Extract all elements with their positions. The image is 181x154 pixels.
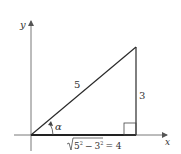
right-triangle-diagram: y x 5 3 α 52−32= 4 [0, 0, 181, 154]
adjacent-result: = 4 [105, 141, 121, 151]
adjacent-formula: 52−32= 4 [67, 138, 122, 151]
hypotenuse-label: 5 [74, 79, 80, 90]
adjacent-exp-1: 2 [80, 140, 83, 146]
opposite-label: 3 [139, 90, 145, 101]
adjacent-minus: − [85, 141, 93, 151]
y-axis-label: y [19, 19, 26, 30]
angle-label: α [55, 121, 62, 132]
hypotenuse-side [31, 47, 136, 135]
svg-text:52−32= 4: 52−32= 4 [74, 140, 122, 151]
x-axis-label: x [165, 137, 170, 147]
adjacent-exp-2: 2 [100, 140, 103, 146]
right-angle-marker [124, 123, 136, 135]
angle-arrow-icon [48, 121, 53, 126]
